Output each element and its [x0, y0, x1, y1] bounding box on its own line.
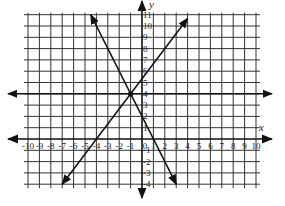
svg-text:-10: -10 [22, 141, 34, 151]
svg-text:3: 3 [174, 141, 179, 151]
svg-text:-6: -6 [70, 141, 78, 151]
svg-text:5: 5 [143, 78, 148, 88]
svg-text:-4: -4 [143, 179, 151, 189]
coordinate-plane: -10-9-8-7-6-5-4-3-2-1012345678910-4-3-2-… [0, 0, 285, 206]
svg-text:7: 7 [143, 55, 148, 65]
plotted-lines [8, 15, 272, 185]
svg-text:8: 8 [231, 141, 236, 151]
svg-text:-9: -9 [36, 141, 44, 151]
svg-text:10: 10 [143, 21, 153, 31]
svg-text:9: 9 [242, 141, 247, 151]
svg-text:6: 6 [208, 141, 213, 151]
svg-text:4: 4 [185, 141, 190, 151]
svg-text:8: 8 [143, 44, 148, 54]
svg-text:-3: -3 [104, 141, 112, 151]
x-axis-label: x [258, 121, 264, 133]
svg-text:10: 10 [252, 141, 262, 151]
y-axis-label: y [148, 0, 154, 10]
svg-text:-7: -7 [58, 141, 66, 151]
svg-text:7: 7 [220, 141, 225, 151]
plotted-line-1 [91, 15, 177, 185]
svg-text:3: 3 [143, 100, 148, 110]
plotted-line-2 [62, 18, 187, 184]
svg-text:-1: -1 [143, 145, 151, 155]
svg-text:-8: -8 [47, 141, 55, 151]
svg-text:2: 2 [163, 141, 168, 151]
axes [8, 1, 272, 198]
svg-text:-3: -3 [143, 168, 151, 178]
svg-text:-2: -2 [115, 141, 123, 151]
svg-text:-2: -2 [143, 157, 151, 167]
intersection-point [128, 91, 133, 96]
svg-text:9: 9 [143, 32, 148, 42]
svg-text:11: 11 [143, 10, 152, 20]
svg-text:-1: -1 [127, 141, 135, 151]
svg-text:5: 5 [197, 141, 202, 151]
